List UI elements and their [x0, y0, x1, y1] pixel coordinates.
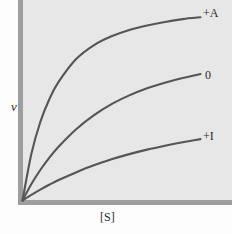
curves-layer — [0, 0, 232, 234]
curve-label-activator: +A — [203, 7, 218, 19]
curve-label-inhibitor: +I — [203, 130, 214, 142]
y-axis-label: v — [11, 100, 17, 113]
x-axis-label: [S] — [100, 211, 115, 223]
curve-control — [23, 74, 201, 200]
curve-label-control: 0 — [205, 69, 211, 81]
enzyme-kinetics-figure: +A 0 +I v [S] — [0, 0, 232, 234]
curve-inhibitor — [23, 139, 201, 200]
curve-activator — [23, 17, 201, 200]
